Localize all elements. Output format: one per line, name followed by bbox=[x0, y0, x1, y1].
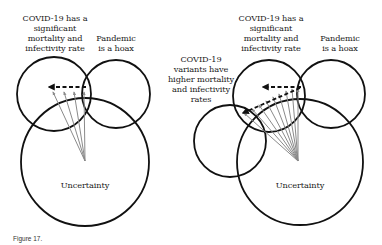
left-hoax-label-line-1: Pandemic bbox=[96, 33, 136, 43]
left-hoax-label: Pandemic is a hoax bbox=[96, 33, 136, 53]
right-hoax-label-line-2: is a hoax bbox=[320, 43, 360, 53]
right-uncertainty-label: Uncertainty bbox=[276, 180, 324, 190]
left-covid-label-line-3: mortality and bbox=[23, 33, 88, 43]
right-uncertainty-text: Uncertainty bbox=[276, 180, 324, 190]
left-gray-arrows bbox=[53, 92, 85, 161]
right-variants-label-line-4: and infectivity bbox=[168, 84, 234, 94]
left-hoax-circle bbox=[82, 60, 150, 128]
right-variants-label: COVID-19 variants have higher mortality … bbox=[168, 54, 234, 104]
right-covid-label-line-3: mortality and bbox=[239, 33, 304, 43]
right-variants-label-line-2: variants have bbox=[168, 64, 234, 74]
right-hoax-label: Pandemic is a hoax bbox=[320, 33, 360, 53]
figure-caption: Figure 17. bbox=[13, 235, 42, 242]
right-uncertainty-circle bbox=[237, 99, 363, 225]
left-diagram bbox=[17, 57, 150, 226]
left-uncertainty-circle bbox=[21, 98, 149, 226]
right-covid-label-line-1: COVID-19 has a bbox=[239, 13, 304, 23]
left-covid-label-line-4: infectivity rate bbox=[23, 43, 88, 53]
left-uncertainty-label: Uncertainty bbox=[61, 180, 109, 190]
left-covid-label: COVID-19 has a significant mortality and… bbox=[23, 13, 88, 53]
right-variants-label-line-3: higher mortality bbox=[168, 74, 234, 84]
right-hoax-circle bbox=[297, 60, 365, 128]
right-covid-label-line-2: significant bbox=[239, 23, 304, 33]
right-variants-circle bbox=[194, 105, 266, 177]
left-covid-label-line-2: significant bbox=[23, 23, 88, 33]
left-covid-label-line-1: COVID-19 has a bbox=[23, 13, 88, 23]
right-variants-label-line-5: rates bbox=[168, 94, 234, 104]
right-covid-label: COVID-19 has a significant mortality and… bbox=[239, 13, 304, 53]
right-hoax-label-line-1: Pandemic bbox=[320, 33, 360, 43]
left-hoax-label-line-2: is a hoax bbox=[96, 43, 136, 53]
left-uncertainty-text: Uncertainty bbox=[61, 180, 109, 190]
right-dashed-arrow-diagonal bbox=[243, 88, 300, 113]
right-covid-label-line-4: infectivity rate bbox=[239, 43, 304, 53]
right-variants-label-line-1: COVID-19 bbox=[168, 54, 234, 64]
